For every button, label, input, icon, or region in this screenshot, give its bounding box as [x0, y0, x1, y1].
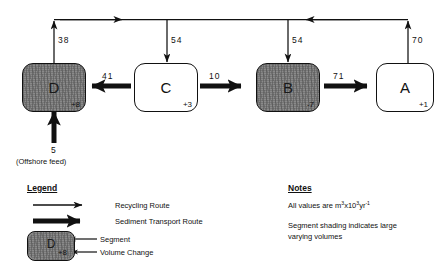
segment-box-c[interactable]: C +3	[134, 63, 198, 112]
flow-value-offshore-feed: 5	[51, 146, 57, 155]
segment-volume-change-a: +1	[419, 101, 428, 109]
segment-volume-change-d: +8	[71, 101, 80, 109]
flow-value-70: 70	[412, 36, 424, 45]
notes-title: Notes	[288, 184, 312, 193]
legend-sample-segment-box: D +8	[27, 231, 75, 261]
legend-sample-segment-label: D	[28, 238, 74, 250]
legend-title: Legend	[27, 184, 57, 193]
segment-volume-change-c: +3	[183, 101, 192, 109]
notes-units-line: All values are m3x103yr-1	[288, 201, 420, 212]
segment-label-a: A	[377, 79, 433, 94]
flow-value-54-b: 54	[292, 36, 304, 45]
segment-label-d: D	[23, 79, 85, 94]
flow-value-41: 41	[102, 72, 114, 81]
legend-callout-volume-change: Volume Change	[100, 249, 153, 257]
segment-box-d[interactable]: D +8	[22, 63, 86, 112]
notes-units-sup3: -1	[365, 200, 370, 206]
notes-shading-note: Segment shading indicates large varying …	[288, 221, 420, 243]
legend-label-recycling-route: Recycling Route	[115, 202, 170, 210]
segment-label-b: B	[257, 79, 319, 94]
offshore-feed-label: (Offshore feed)	[16, 157, 66, 167]
legend-label-sediment-transport-route: Sediment Transport Route	[115, 218, 203, 226]
flow-value-38: 38	[58, 36, 70, 45]
legend-sample-volume-change: +8	[58, 249, 67, 257]
legend-callout-segment: Segment	[100, 236, 130, 244]
segment-box-a[interactable]: A +1	[376, 63, 434, 112]
flow-value-10: 10	[209, 72, 221, 81]
diagram-canvas: D +8 C +3 B -7 A +1 38 54 54 70 41 10 71…	[0, 0, 436, 269]
flow-value-71: 71	[333, 72, 345, 81]
segment-box-b[interactable]: B -7	[256, 63, 320, 112]
notes-units-prefix: All values are m	[288, 201, 341, 210]
segment-volume-change-b: -7	[307, 101, 314, 109]
notes-units-mid: x10	[344, 201, 356, 210]
flow-value-54-c: 54	[171, 36, 183, 45]
segment-label-c: C	[135, 79, 197, 94]
